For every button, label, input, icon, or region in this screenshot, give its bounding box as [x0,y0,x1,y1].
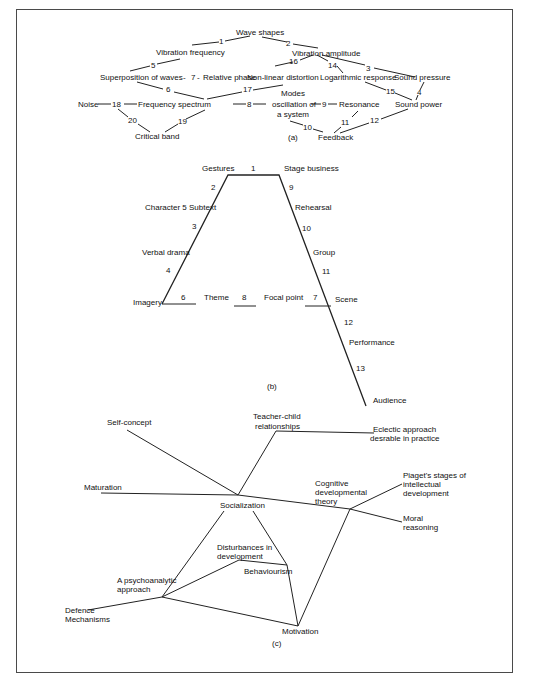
edge-11-top [352,111,358,117]
node-non-linear-distortion: Non-linear distortion [247,73,319,82]
node-superposition-of-waves: Superposition of waves [100,73,183,82]
node-vibration-frequency: Vibration frequency [156,48,225,57]
node-feedback: Feedback [318,133,354,142]
edge-12-right [381,109,408,119]
edge-label-8: 8 [242,293,247,302]
node-noise: Noise [78,100,99,109]
node-eclectic-line1: Eclectic approach [373,425,436,434]
node-defence-line1: Defence [65,606,95,615]
edge-maturation-socialization [101,493,238,495]
edge-5-right [157,59,180,64]
node-cognitive-line2: developmental [315,488,367,497]
node-self-concept: Self-concept [107,418,152,427]
edge-20-top [118,109,128,117]
caption-a-visible: (a) [288,133,298,142]
node-resonance: Resonance [339,100,380,109]
node-piaget-line1: Piaget's stages of [403,471,467,480]
edge-label-3: 3 [366,64,371,73]
node-gestures: Gestures [202,164,234,173]
diagram-b: Gestures Stage business Character 5 Subt… [133,164,407,406]
edge-2-left [262,37,287,42]
node-theme: Theme [204,293,229,302]
edge-label-1: 1 [251,164,256,173]
node-logarithmic-response: Logarithmic response [320,73,397,82]
edge-17-left [207,92,242,99]
edge-6-right [174,92,204,99]
edge-cognitive-motivation [298,509,350,626]
node-imagery: Imagery [133,298,162,307]
node-piaget-line2: intellectual [403,480,441,489]
edge-label-19: 19 [178,117,187,126]
edge-label-2: 2 [211,183,216,192]
edge-label-8: 8 [247,100,252,109]
edge-label-16: 16 [289,57,298,66]
edge-label-6: 6 [166,85,171,94]
edge-label-9: 9 [322,100,327,109]
node-psychoanalytic-line1: A psychoanalytic [117,576,177,585]
node-eclectic-line2: desrable in practice [370,434,440,443]
edge-label-13: 13 [356,364,365,373]
node-audience: Audience [373,396,407,405]
node-stage-business: Stage business [284,164,339,173]
node-modes-line1: Modes [281,89,305,98]
edge-label-18: 18 [112,100,121,109]
node-frequency-spectrum: Frequency spectrum [138,100,211,109]
edge-socialization-teacher-child [238,431,276,495]
node-defence-line2: Mechanisms [65,615,110,624]
node-maturation: Maturation [84,483,122,492]
edge-6-left [137,82,163,89]
node-disturbances-line2: development [217,552,264,561]
edge-cognitive-moral [350,509,402,522]
edge-20-bottom [138,124,150,132]
edge-17-right [253,85,283,90]
node-cognitive-line3: theory [315,497,337,506]
node-moral-line2: reasoning [403,523,438,532]
edge-teacher-child-eclectic [276,431,374,433]
edge-label-12: 12 [344,318,353,327]
node-rehearsal: Rehearsal [295,203,332,212]
edge-label-7: 7 [313,293,318,302]
edge-19-top [186,110,205,119]
node-vibration-amplitude: Vibration amplitude [292,49,361,58]
node-socialization: Socialization [220,501,265,510]
edge-label-10: 10 [303,123,312,132]
node-character-subtext: Character 5 Subtext [145,203,217,212]
edge-psychoanalytic-defence [88,597,162,610]
caption-c: (c) [272,639,282,648]
caption-b: (b) [267,382,277,391]
node-behaviourism: Behaviourism [244,567,293,576]
node-wave-shapes: Wave shapes [236,28,284,37]
edge-label-14: 14 [328,61,337,70]
node-focal-point: Focal point [264,293,304,302]
edge-7-dash-right: - [197,73,200,82]
node-motivation: Motivation [282,627,318,636]
edge-7-dash-left: - [183,73,186,82]
edge-2-right [293,44,318,48]
edge-15-right [395,93,412,100]
edge-label-17: 17 [243,85,252,94]
edge-label-10: 10 [302,224,311,233]
node-modes-line3: a system [277,110,309,119]
edge-label-3: 3 [192,222,197,231]
edge-psychoanalytic-motivation [162,597,298,626]
edge-label-6: 6 [181,293,186,302]
node-modes-line2: oscillation of [272,100,317,109]
diagram-c: Self-concept Teacher-child relationships… [65,412,467,648]
edge-label-7: 7 [191,73,196,82]
node-cognitive-line1: Cognitive [315,479,349,488]
edge-15-left [365,82,386,90]
node-verbal-drama: Verbal drama [142,248,190,257]
edge-label-4: 4 [166,266,171,275]
edge-self-concept-socialization [127,430,238,495]
edge-label-15: 15 [386,87,395,96]
edge-14-right [337,66,343,73]
node-performance: Performance [349,338,395,347]
edge-label-20: 20 [128,116,137,125]
node-teacher-child-line1: Teacher-child [253,412,301,421]
node-moral-line1: Moral [403,514,423,523]
node-sound-power: Sound power [395,100,442,109]
node-psychoanalytic-line2: approach [117,585,150,594]
edge-19-bottom [165,124,178,132]
edge-label-11: 11 [322,267,331,276]
edge-10-left [290,121,303,125]
